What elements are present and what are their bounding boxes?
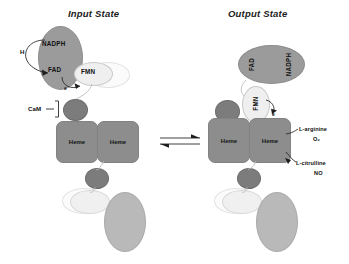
electron-label: e [64,85,67,91]
proton-label: H [20,48,25,55]
heme-left-label-out: Heme [221,138,237,144]
equilibrium-arrow-bottom-head [160,144,169,148]
l-arginine-label: L-arginine [299,126,327,132]
heme-domain-right: Heme [97,121,139,163]
fmn-label-out: FMN [252,91,259,117]
cam-circle-lower [85,168,109,189]
fmn-cam-linker [76,84,92,99]
heme-domain-right-out: Heme [249,118,291,163]
figure-canvas: Input State Output State NADPH FAD FMN H… [0,0,349,264]
fmn-label: FMN [81,68,95,75]
l-citrulline-label: L-citrulline [296,160,326,166]
equilibrium-arrow-top-head [191,134,200,138]
fad-label-out: FAD [248,47,255,83]
heme-domain-left: Heme [56,121,98,163]
input-state-title: Input State [68,8,119,19]
output-state-title: Output State [228,8,287,19]
nadph-label-out: NADPH [285,47,292,83]
reductase-oval-lower-out [256,192,298,252]
heme-domain-left-out: Heme [208,118,250,163]
reductase-oval-lower [104,192,146,252]
fmn-oval-lower [70,190,110,214]
heme-left-label: Heme [69,139,85,145]
o2-label: O₂ [313,136,320,142]
cam-bracket [55,101,59,117]
heme-right-label-out: Heme [262,138,278,144]
electron-label-out: e [272,111,275,117]
cam-circle [63,99,88,121]
heme-right-label: Heme [110,139,126,145]
fad-label: FAD [48,66,61,73]
cam-circle-lower-out [237,168,261,189]
electron-arrowhead [75,83,81,89]
cam-label: CaM [28,105,41,112]
no-label: NO [314,170,323,176]
fmn-oval-lower-out [222,190,262,214]
nadph-label: NADPH [42,40,65,47]
